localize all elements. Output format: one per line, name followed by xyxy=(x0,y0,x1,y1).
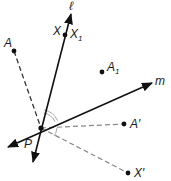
angle-arc-lower xyxy=(54,128,57,136)
point-P xyxy=(38,125,43,130)
point-A xyxy=(12,49,17,54)
label-A-prime: A′ xyxy=(129,117,141,131)
label-A: A xyxy=(3,36,12,50)
label-X: X xyxy=(52,24,62,38)
label-X1: X1 xyxy=(69,27,82,43)
label-l: ℓ xyxy=(69,0,74,13)
point-A-prime xyxy=(122,122,127,127)
point-X xyxy=(63,33,68,38)
reflection-diagram: ℓ m A X X1 A1 A′ X′ P xyxy=(0,0,171,181)
label-A1: A1 xyxy=(106,60,119,76)
dashed-segment-A-P xyxy=(14,51,41,128)
point-A1 xyxy=(100,70,105,75)
point-X-prime xyxy=(126,171,131,176)
dashed-segment-P-X-prime xyxy=(41,128,128,173)
label-X-prime: X′ xyxy=(133,166,145,180)
label-m: m xyxy=(155,74,165,88)
label-P: P xyxy=(24,137,32,151)
